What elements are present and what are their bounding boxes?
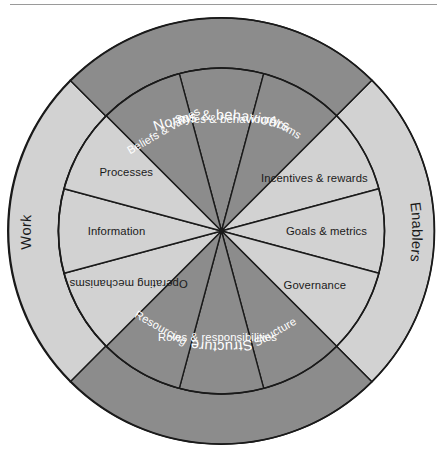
- wheel-group: Styles & behaviours Norms Incentives & r…: [8, 18, 435, 445]
- segment-label-information: Information: [88, 225, 146, 237]
- wheel-diagram: Styles & behaviours Norms Incentives & r…: [0, 0, 443, 460]
- ring-label-enablers: Enablers: [407, 201, 425, 263]
- ring-label-structure: Structure: [190, 337, 254, 355]
- segment-label-goals-and-metrics: Goals & metrics: [286, 225, 367, 237]
- wheel-hub: [219, 228, 224, 233]
- segment-label-processes: Processes: [99, 166, 153, 178]
- organisation-wheel-figure: Styles & behaviours Norms Incentives & r…: [0, 0, 443, 460]
- top-divider-rule: [10, 4, 437, 5]
- segment-label-operating-mechanisms: Operating mechanisms: [69, 278, 187, 290]
- segment-label-incentives-and-rewards: Incentives & rewards: [261, 172, 368, 184]
- ring-label-work: Work: [18, 213, 35, 250]
- segment-label-governance: Governance: [283, 279, 346, 291]
